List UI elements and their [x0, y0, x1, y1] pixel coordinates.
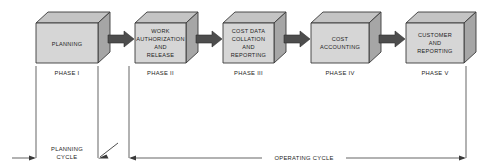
stage-label-line: AND	[154, 44, 167, 50]
planning-cycle-label-line: CYCLE	[57, 154, 78, 160]
stage-label-line: COST DATA	[232, 28, 265, 34]
flow-arrow-4-icon	[379, 31, 405, 47]
stage-label-line: REPORTING	[417, 48, 452, 54]
phase-label-2: PHASE II	[147, 70, 174, 76]
planning-cycle-diagonal-leader	[100, 143, 118, 157]
stage-box-cost-data-collation-and-reporting: COST DATA COLLATION AND REPORTING	[223, 12, 286, 63]
operating-cycle-left-arrowhead-icon	[129, 156, 136, 161]
process-flow-diagram: PLANNING PHASE I WORK AUTHORIZATION AND …	[0, 0, 498, 168]
planning-cycle-bracket: PLANNING CYCLE	[12, 66, 118, 160]
stage-label-line: AUTHORIZATION	[136, 36, 185, 42]
flow-arrow-3-icon	[284, 31, 310, 47]
operating-cycle-label-line: OPERATING CYCLE	[274, 155, 333, 161]
stage-box-cost-accounting: COST ACCOUNTING	[311, 12, 381, 63]
phase-label-3: PHASE III	[234, 70, 263, 76]
phase-label-4: PHASE IV	[325, 70, 354, 76]
stage-box-customer-and-reporting: CUSTOMER AND REPORTING	[406, 12, 476, 63]
stage-label-line: ACCOUNTING	[320, 44, 360, 50]
stage-label-line: CUSTOMER	[418, 32, 452, 38]
planning-cycle-label-line: PLANNING	[51, 146, 83, 152]
stage-label-line: PLANNING	[52, 41, 83, 47]
planning-cycle-left-arrowhead-icon	[29, 156, 36, 161]
stage-box-work-authorization-and-release: WORK AUTHORIZATION AND RELEASE	[135, 12, 198, 63]
flow-arrow-1-icon	[108, 31, 134, 47]
stage-label-line: COST	[332, 36, 349, 42]
phase-label-5: PHASE V	[421, 70, 448, 76]
stage-label-line: REPORTING	[231, 52, 266, 58]
stage-label-line: AND	[429, 40, 442, 46]
box-top-face	[36, 12, 110, 23]
stage-label-line: RELEASE	[147, 52, 175, 58]
flow-arrow-2-icon	[196, 31, 222, 47]
operating-cycle-bracket: OPERATING CYCLE	[129, 66, 466, 161]
planning-cycle-diagonal-arrowhead-icon	[98, 155, 109, 159]
stage-box-planning: PLANNING	[36, 12, 110, 63]
stage-label-line: WORK	[151, 28, 169, 34]
diagram-canvas: PLANNING PHASE I WORK AUTHORIZATION AND …	[0, 0, 498, 168]
stage-label-line: AND	[242, 44, 255, 50]
stage-label-line: COLLATION	[232, 36, 266, 42]
operating-cycle-right-arrowhead-icon	[459, 156, 466, 161]
phase-label-1: PHASE I	[55, 70, 80, 76]
